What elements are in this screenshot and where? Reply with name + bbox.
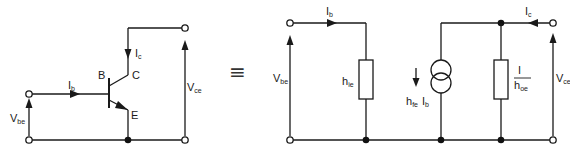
vce-label: Vce: [187, 81, 202, 94]
source-label: hfeIb: [406, 95, 429, 108]
input-current-label: Ib: [326, 5, 333, 18]
emitter-output-terminal: [182, 137, 188, 143]
vce-arrow-head-right: [550, 33, 557, 43]
base-label: B: [98, 69, 105, 81]
vbe-label-right: Vbe: [273, 72, 288, 85]
transistor-circuit: B C E Ib Ic Vbe Vce: [10, 25, 202, 144]
base-terminal: [26, 91, 32, 97]
input-bottom-terminal: [287, 137, 293, 143]
collector-terminal: [182, 25, 188, 31]
vbe-arrow-head: [26, 98, 33, 108]
hoe-numerator: I: [518, 64, 521, 76]
hoe-denominator: hoe: [514, 79, 528, 92]
circuit-diagram: B C E Ib Ic Vbe Vce ≡: [0, 0, 570, 156]
hoe-resistor: [494, 60, 508, 99]
ground-junction-dot: [125, 137, 132, 144]
source-direction-arrow: [413, 78, 420, 87]
hoe-junction-dot: [498, 137, 505, 144]
equivalence-symbol: ≡: [229, 60, 246, 84]
collector-label: C: [132, 69, 140, 81]
emitter-label: E: [131, 109, 138, 121]
source-junction-dot: [438, 137, 445, 144]
output-current-arrow: [528, 19, 538, 27]
vce-label-right: Vce: [556, 72, 570, 85]
h-parameter-circuit: Ib Vbe hie hfeIb I hoe Ic Vce: [273, 5, 570, 143]
emitter-arrow-icon: [115, 101, 128, 110]
output-current-label: Ic: [525, 5, 532, 18]
current-source-upper-circle: [431, 60, 451, 80]
hie-junction-dot: [363, 137, 370, 144]
vbe-arrow-head-right: [287, 35, 294, 45]
input-current-arrow: [327, 19, 337, 27]
collector-current-arrow: [125, 49, 132, 59]
collector-current-label: Ic: [135, 47, 142, 60]
hie-resistor: [359, 60, 373, 99]
output-bottom-terminal: [550, 137, 556, 143]
current-source-lower-circle: [431, 73, 451, 93]
collector-lead: [109, 75, 128, 86]
hie-label: hie: [342, 75, 354, 88]
base-current-label: Ib: [68, 79, 75, 92]
vce-arrow-head: [182, 40, 189, 50]
input-top-terminal: [287, 20, 293, 26]
emitter-input-terminal: [26, 137, 32, 143]
output-top-terminal: [550, 20, 556, 26]
vbe-label: Vbe: [10, 112, 25, 125]
